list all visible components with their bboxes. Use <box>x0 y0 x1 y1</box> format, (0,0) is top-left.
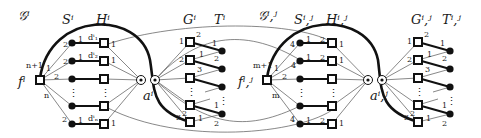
svg-text:1: 1 <box>199 50 204 59</box>
svg-text:2: 2 <box>214 54 219 63</box>
right-h-ellipsis: ⋮ <box>328 87 339 100</box>
svg-text:1: 1 <box>212 39 217 48</box>
svg-text:2: 2 <box>196 30 201 39</box>
svg-text:3: 3 <box>176 113 181 122</box>
svg-text:1: 1 <box>78 53 83 62</box>
right-g-label: Gⁱ,ʲ <box>411 12 432 27</box>
svg-text:2: 2 <box>214 119 219 128</box>
svg-text:2: 2 <box>282 72 287 81</box>
left-f-node <box>36 76 44 84</box>
svg-text:1: 1 <box>111 56 116 65</box>
svg-text:1: 1 <box>440 39 445 48</box>
svg-text:1: 1 <box>78 116 83 125</box>
svg-text:1: 1 <box>407 37 412 46</box>
svg-text:1: 1 <box>111 40 116 49</box>
left-a-nodes <box>137 76 160 85</box>
svg-text:1: 1 <box>198 114 203 123</box>
right-gadget: 𝒢ⁱ,ʲ Sⁱ,ʲ Hⁱ,ʲ Gⁱ,ʲ Tⁱ,ʲ <box>237 8 461 128</box>
svg-text:3: 3 <box>425 65 430 74</box>
left-t-label: Tⁱ <box>214 12 226 27</box>
svg-text:2: 2 <box>442 119 447 128</box>
left-s-nodes <box>68 39 75 127</box>
svg-text:4: 4 <box>290 40 295 49</box>
left-h-to-a-edges <box>104 43 141 124</box>
svg-text:2: 2 <box>63 40 68 49</box>
left-s-ellipsis: ⋮ <box>68 87 79 100</box>
left-g-ellipsis: ⋮ <box>186 86 197 99</box>
svg-text:1: 1 <box>427 50 432 59</box>
svg-text:1: 1 <box>306 53 311 62</box>
svg-text:2: 2 <box>410 109 415 118</box>
svg-text:1: 1 <box>78 35 83 44</box>
svg-text:1: 1 <box>426 114 431 123</box>
right-f-node <box>263 76 271 84</box>
right-f-label: fⁱ,ʲ <box>237 74 254 89</box>
right-a-label: aⁱ,ʲ <box>370 88 388 103</box>
svg-text:2: 2 <box>442 54 447 63</box>
right-s-nodes <box>296 39 303 127</box>
left-h-ellipsis: ⋮ <box>100 87 111 100</box>
svg-text:1: 1 <box>46 64 51 73</box>
gadget-diagram: 𝒢ⁱ Sⁱ Hⁱ Gⁱ Tⁱ <box>0 0 481 138</box>
right-g-ellipsis: ⋮ <box>414 86 425 99</box>
right-t-label: Tⁱ,ʲ <box>442 12 461 27</box>
svg-text:2: 2 <box>179 55 184 64</box>
right-h-nodes <box>328 39 336 128</box>
svg-text:1: 1 <box>179 37 184 46</box>
right-a-nodes <box>364 76 387 85</box>
svg-text:3: 3 <box>197 65 202 74</box>
svg-text:n: n <box>44 91 49 100</box>
left-g-label: Gⁱ <box>183 12 196 27</box>
svg-text:dⁱ₁: dⁱ₁ <box>88 33 98 42</box>
svg-text:1: 1 <box>339 40 344 49</box>
svg-text:1: 1 <box>306 35 311 44</box>
svg-text:1: 1 <box>274 64 279 73</box>
connecting-curve-outer-top <box>155 40 300 80</box>
right-h-to-a-edges <box>332 43 368 124</box>
svg-text:1: 1 <box>111 119 116 128</box>
left-gadget-title: 𝒢ⁱ <box>18 8 30 23</box>
svg-text:4: 4 <box>290 115 295 124</box>
svg-text:1: 1 <box>214 101 219 110</box>
right-g-nodes <box>414 38 422 126</box>
svg-text:1: 1 <box>339 56 344 65</box>
svg-text:1: 1 <box>442 101 447 110</box>
svg-text:2: 2 <box>320 53 325 62</box>
svg-text:2: 2 <box>63 57 68 66</box>
svg-text:1: 1 <box>306 116 311 125</box>
right-t-ellipsis: ⋮ <box>446 95 457 108</box>
svg-text:2: 2 <box>182 109 187 118</box>
svg-text:m: m <box>272 91 280 100</box>
left-t-ellipsis: ⋮ <box>218 95 229 108</box>
svg-text:4: 4 <box>291 61 296 70</box>
svg-text:m+1: m+1 <box>253 61 272 70</box>
svg-text:2: 2 <box>62 115 67 124</box>
right-s-ellipsis: ⋮ <box>296 87 307 100</box>
left-h-nodes <box>100 39 108 128</box>
left-a-label: aⁱ <box>143 88 154 103</box>
svg-text:2: 2 <box>320 35 325 44</box>
left-f-label: fⁱ <box>17 74 26 89</box>
svg-text:2: 2 <box>424 30 429 39</box>
svg-text:1: 1 <box>339 119 344 128</box>
svg-text:2: 2 <box>54 72 59 81</box>
svg-text:2: 2 <box>407 55 412 64</box>
svg-text:n+1: n+1 <box>26 61 43 70</box>
right-s-label: Sⁱ,ʲ <box>294 12 314 27</box>
left-s-label: Sⁱ <box>62 12 74 27</box>
svg-text:3: 3 <box>404 113 409 122</box>
svg-text:2: 2 <box>320 116 325 125</box>
svg-text:dⁱₙ: dⁱₙ <box>88 114 99 123</box>
svg-text:dⁱ₂: dⁱ₂ <box>88 51 98 60</box>
right-gadget-title: 𝒢ⁱ,ʲ <box>258 8 278 23</box>
